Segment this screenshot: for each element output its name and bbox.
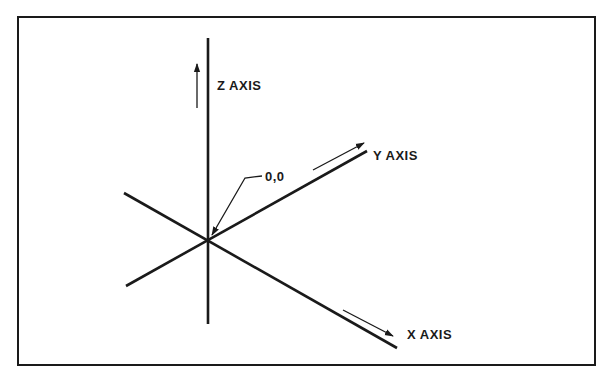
- axes-diagram: Z AXIS Y AXIS X AXIS 0,0: [0, 0, 609, 378]
- y-axis-label: Y AXIS: [373, 148, 418, 163]
- y-axis-line: [126, 151, 367, 286]
- origin-label: 0,0: [265, 169, 285, 184]
- x-axis-label: X AXIS: [407, 327, 452, 342]
- origin-leader-arrow-icon: [212, 176, 262, 235]
- z-axis-label: Z AXIS: [217, 78, 261, 93]
- x-axis-line: [124, 193, 397, 348]
